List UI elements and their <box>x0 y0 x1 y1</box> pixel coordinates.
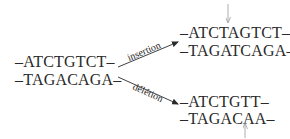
arrows-layer: insertion délétion <box>0 0 290 139</box>
insertion-label: insertion <box>126 39 163 63</box>
deletion-label: délétion <box>131 81 165 104</box>
